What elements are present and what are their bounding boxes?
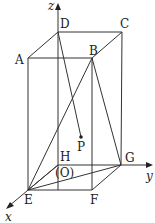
label-p: P	[77, 140, 85, 154]
x-label: x	[5, 210, 12, 223]
y-arrow-icon	[146, 162, 153, 168]
label-origin: (O)	[55, 166, 74, 180]
label-a: A	[14, 53, 24, 67]
label-g: G	[125, 151, 135, 165]
prism-edges	[28, 32, 122, 190]
label-c: C	[120, 17, 129, 31]
label-f: F	[90, 193, 98, 207]
z-arrow-icon	[55, 3, 61, 10]
geometry-diagram: z y x D C A B P H G (O) E F	[0, 0, 155, 223]
point-p	[79, 135, 83, 139]
label-e: E	[24, 193, 33, 207]
label-b: B	[89, 44, 98, 58]
label-h: H	[60, 150, 70, 164]
z-label: z	[47, 0, 55, 13]
label-d: D	[60, 17, 70, 31]
y-label: y	[145, 169, 153, 183]
